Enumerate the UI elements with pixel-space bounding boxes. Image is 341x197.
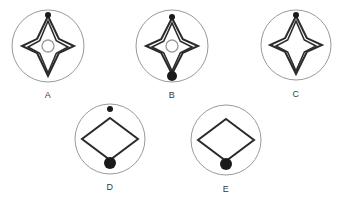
figure-label-c: C bbox=[286, 89, 306, 99]
figure-label-d: D bbox=[100, 182, 120, 192]
diamond-e bbox=[198, 119, 254, 161]
diamond-inner-a bbox=[28, 21, 68, 73]
figure-b bbox=[136, 10, 208, 82]
figure-d bbox=[75, 104, 145, 174]
figure-board: ABCDE bbox=[0, 0, 341, 197]
figure-label-a: A bbox=[38, 90, 58, 100]
diamond-inner-b bbox=[152, 23, 192, 71]
bottom-dot-e bbox=[220, 158, 232, 170]
bottom-dot-d bbox=[104, 157, 116, 169]
figure-a bbox=[12, 10, 84, 82]
top-dot-b bbox=[169, 14, 175, 20]
bottom-dot-b bbox=[167, 71, 177, 81]
top-dot-d bbox=[107, 106, 113, 112]
top-dot-c bbox=[293, 12, 299, 18]
center-ring-a bbox=[42, 40, 54, 52]
diamond-d bbox=[82, 118, 138, 160]
top-dot-a bbox=[45, 12, 51, 18]
center-ring-b bbox=[166, 40, 178, 52]
figure-label-e: E bbox=[216, 184, 236, 194]
figure-label-b: B bbox=[162, 90, 182, 100]
diamond-inner-c bbox=[276, 21, 316, 71]
figure-e bbox=[191, 105, 261, 175]
figure-c bbox=[261, 10, 331, 80]
